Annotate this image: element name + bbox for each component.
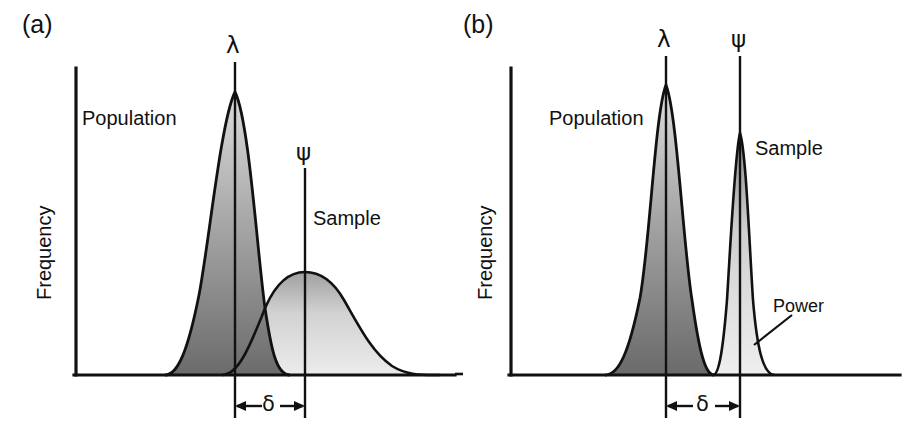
psi-symbol-a: ψ [296, 141, 311, 164]
population-label-b: Population [549, 108, 644, 128]
power-label-b: Power [773, 297, 824, 315]
y-axis-title-b: Frequency [475, 206, 495, 301]
figure-root: (a) Frequency Population Sample λ ψ δ [0, 0, 910, 445]
sample-label-b: Sample [755, 138, 823, 158]
lambda-symbol-b: λ [657, 28, 671, 51]
panel-a-plot [0, 0, 455, 445]
panel-b-plot [455, 0, 910, 445]
panel-label-b: (b) [463, 12, 494, 37]
population-label-a: Population [82, 108, 177, 128]
delta-symbol-b: δ [696, 394, 709, 415]
power-leader-line-b [754, 315, 792, 345]
y-axis-title-a: Frequency [34, 206, 54, 301]
delta-symbol-a: δ [262, 394, 275, 415]
panel-b: (b) Frequency Population Sample Power λ … [455, 0, 910, 445]
panel-a: (a) Frequency Population Sample λ ψ δ [0, 0, 455, 445]
lambda-symbol-a: λ [226, 34, 240, 57]
panel-label-a: (a) [22, 12, 53, 37]
psi-symbol-b: ψ [731, 28, 746, 51]
sample-label-a: Sample [313, 208, 381, 228]
